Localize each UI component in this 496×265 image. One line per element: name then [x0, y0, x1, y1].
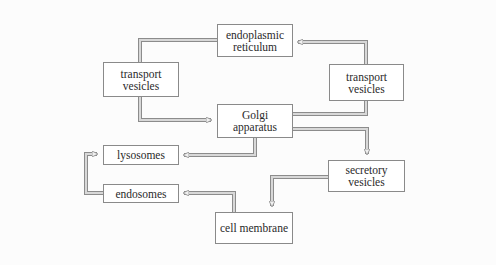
- node-secretory-vesicles: secretoryvesicles: [328, 160, 405, 192]
- node-label: Golgi: [233, 109, 277, 121]
- node-label: secretory: [345, 164, 387, 176]
- node-label: cell membrane: [220, 222, 288, 234]
- edge-golgi-to-transport-right: [292, 100, 366, 114]
- edge-membrane-to-endosomes: [184, 193, 234, 212]
- node-transport-vesicles-right: transportvesicles: [329, 64, 404, 101]
- node-label: lysosomes: [117, 149, 165, 161]
- edge-endosomes-to-lysosomes: [86, 154, 103, 193]
- node-endosomes: endosomes: [103, 184, 179, 203]
- edge-er-to-transport-left: [140, 40, 217, 62]
- edge-transport-right-to-er: [298, 42, 366, 64]
- node-golgi-apparatus: Golgiapparatus: [217, 104, 293, 138]
- edge-secretory-to-membrane: [272, 177, 328, 206]
- edge-golgi-to-lysosomes: [184, 137, 255, 155]
- node-transport-vesicles-left: transportvesicles: [103, 62, 179, 97]
- node-label: reticulum: [226, 41, 284, 53]
- node-label: vesicles: [121, 80, 162, 92]
- node-label: apparatus: [233, 121, 277, 133]
- diagram-canvas: endoplasmicreticulum transportvesicles t…: [0, 0, 496, 265]
- node-label: transport: [346, 71, 387, 83]
- node-label: transport: [121, 68, 162, 80]
- node-label: endoplasmic: [226, 29, 284, 41]
- node-cell-membrane: cell membrane: [215, 212, 293, 244]
- node-label: endosomes: [115, 188, 166, 200]
- node-label: vesicles: [345, 176, 387, 188]
- node-endoplasmic-reticulum: endoplasmicreticulum: [217, 24, 293, 57]
- edge-transport-left-to-golgi: [140, 96, 211, 120]
- edge-golgi-to-secretory: [292, 129, 367, 154]
- node-label: vesicles: [346, 83, 387, 95]
- node-lysosomes: lysosomes: [103, 145, 179, 165]
